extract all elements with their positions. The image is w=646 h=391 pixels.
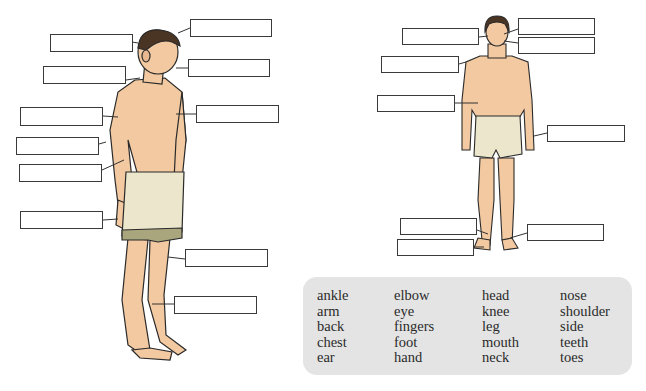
word: toes: [560, 350, 610, 366]
word: fingers: [394, 319, 434, 335]
word-bank: ankle arm back chest ear elbow eye finge…: [303, 277, 632, 375]
label-box-knee[interactable]: [185, 249, 268, 267]
word: knee: [482, 304, 519, 320]
label-box-nose[interactable]: [518, 18, 595, 35]
label-box-ankle[interactable]: [400, 218, 477, 235]
label-box-hair-ear[interactable]: [50, 34, 133, 52]
label-box-shoulder-front[interactable]: [381, 56, 459, 73]
label-box-teeth[interactable]: [518, 37, 595, 54]
label-box-mouth[interactable]: [188, 59, 270, 77]
word: elbow: [394, 288, 434, 304]
label-box-foot[interactable]: [527, 224, 604, 241]
label-box-leg[interactable]: [174, 296, 257, 314]
word: mouth: [482, 335, 519, 351]
label-box-hand[interactable]: [20, 211, 103, 229]
word: head: [482, 288, 519, 304]
word: nose: [560, 288, 610, 304]
label-box-side[interactable]: [377, 95, 455, 112]
word-bank-column-1: ankle arm back chest ear: [317, 288, 348, 366]
word-bank-column-2: elbow eye fingers foot hand: [394, 288, 434, 366]
word: foot: [394, 335, 434, 351]
word: ear: [317, 350, 348, 366]
label-box-head[interactable]: [190, 19, 272, 37]
label-box-chest[interactable]: [196, 105, 279, 123]
label-box-back[interactable]: [19, 164, 102, 182]
word: arm: [317, 304, 348, 320]
word-bank-column-3: head knee leg mouth neck: [482, 288, 519, 366]
label-box-neck[interactable]: [43, 66, 126, 84]
word: ankle: [317, 288, 348, 304]
word: neck: [482, 350, 519, 366]
label-box-shoulder[interactable]: [20, 107, 103, 126]
label-box-fingers[interactable]: [547, 125, 625, 142]
label-box-eye[interactable]: [402, 28, 479, 45]
label-box-elbow[interactable]: [16, 137, 99, 155]
word: side: [560, 319, 610, 335]
word: leg: [482, 319, 519, 335]
word: eye: [394, 304, 434, 320]
word: teeth: [560, 335, 610, 351]
word: hand: [394, 350, 434, 366]
label-box-toes[interactable]: [397, 239, 474, 256]
word: back: [317, 319, 348, 335]
word: chest: [317, 335, 348, 351]
word-bank-column-4: nose shoulder side teeth toes: [560, 288, 610, 366]
word: shoulder: [560, 304, 610, 320]
